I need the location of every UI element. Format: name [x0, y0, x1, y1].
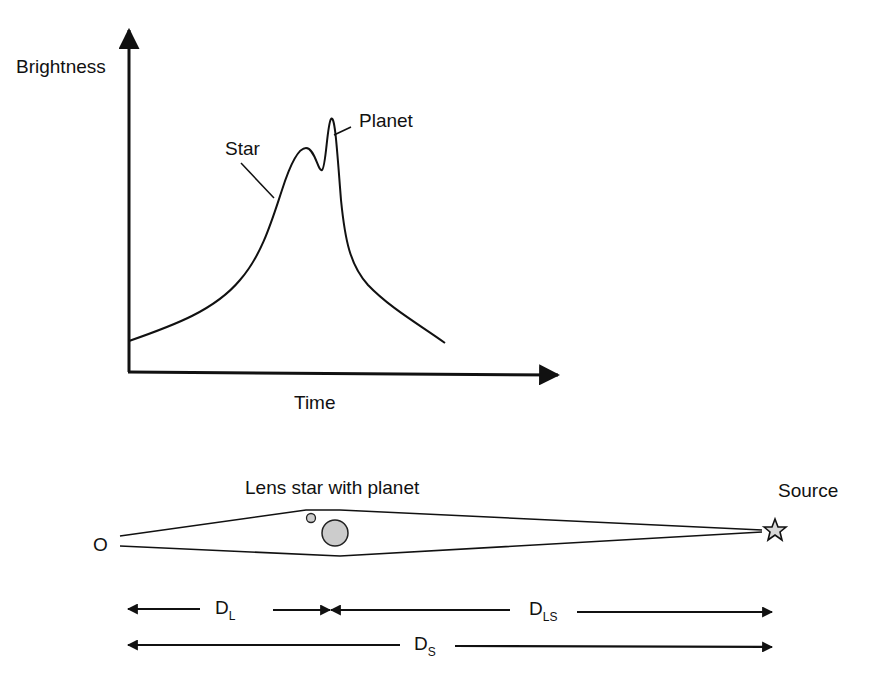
- diagram-canvas: [0, 0, 872, 676]
- ds-main: D: [414, 633, 428, 654]
- ds-label: DS: [414, 634, 436, 653]
- lens-star-circle: [322, 520, 348, 546]
- planet-leader-line: [334, 127, 351, 135]
- y-axis-label: Brightness: [16, 57, 106, 76]
- planet-annotation: Planet: [359, 111, 413, 130]
- dl-sub: L: [229, 609, 236, 623]
- light-path-upper: [120, 510, 762, 536]
- dls-sub: LS: [543, 610, 558, 624]
- planet-circle: [307, 514, 316, 523]
- observer-label: O: [93, 535, 108, 554]
- light-curve: [129, 119, 445, 343]
- dls-main: D: [529, 598, 543, 619]
- ds-arrow: [128, 645, 772, 647]
- source-label: Source: [778, 481, 838, 500]
- dls-label: DLS: [529, 599, 557, 618]
- ds-sub: S: [428, 645, 436, 659]
- source-star-icon: [764, 519, 786, 540]
- x-axis-label: Time: [294, 393, 336, 412]
- dl-main: D: [215, 597, 229, 618]
- lens-label: Lens star with planet: [245, 478, 419, 497]
- light-path-lower: [120, 532, 762, 556]
- dl-label: DL: [215, 598, 235, 617]
- x-axis: [128, 372, 558, 375]
- star-annotation: Star: [225, 139, 260, 158]
- star-leader-line: [241, 163, 274, 198]
